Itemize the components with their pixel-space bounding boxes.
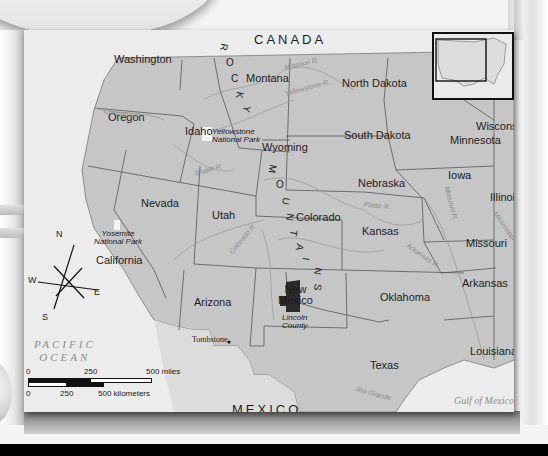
label-gulf-of-mexico: Gulf of Mexico <box>454 396 514 406</box>
compass-e: E <box>94 288 100 297</box>
label-mexico: MEXICO <box>232 403 301 412</box>
right-pillar <box>508 0 548 425</box>
label-south-dakota: South Dakota <box>344 130 411 141</box>
bottom-bar <box>0 444 548 456</box>
mtn-letter: Y <box>241 105 252 113</box>
label-utah: Utah <box>212 210 235 221</box>
label-new-mexico: New Mexico <box>278 284 313 306</box>
label-california: California <box>96 255 142 266</box>
label-minnesota: Minnesota <box>450 135 501 146</box>
label-idaho: Idaho <box>185 126 213 137</box>
label-new-mexico-line2: Mexico <box>278 295 313 306</box>
label-lincoln-county: Lincoln County <box>282 314 307 331</box>
label-nebraska: Nebraska <box>358 178 405 189</box>
label-illinois: Illinois <box>490 192 514 203</box>
label-arizona: Arizona <box>194 297 231 308</box>
mtn-letter: S <box>312 283 323 291</box>
label-north-dakota: North Dakota <box>342 78 407 89</box>
label-arkansas: Arkansas <box>462 278 508 289</box>
label-canada: CANADA <box>254 33 326 46</box>
label-colorado: Colorado <box>296 212 341 223</box>
map-shadow <box>24 411 520 434</box>
compass-s: S <box>42 313 48 322</box>
mtn-letter: O <box>276 180 284 190</box>
label-pacific-ocean: PACIFIC OCEAN <box>34 338 96 363</box>
ui-frame: CANADA MEXICO Washington Oregon Idaho Mo… <box>0 0 548 456</box>
right-pillar-accent <box>514 0 524 40</box>
mtn-letter: A <box>294 243 305 251</box>
label-texas: Texas <box>370 360 399 371</box>
label-montana: Montana <box>246 73 289 84</box>
label-washington: Washington <box>114 54 172 65</box>
label-iowa: Iowa <box>448 170 471 181</box>
mtn-letter: U <box>280 197 291 206</box>
label-kansas: Kansas <box>362 226 399 237</box>
inset-map <box>432 32 514 100</box>
mtn-letter: R <box>218 43 229 52</box>
mtn-letter: M <box>267 164 278 174</box>
label-yosemite: Yosemite National Park <box>94 230 142 247</box>
mtn-letter: N <box>284 213 295 222</box>
mtn-letter: C <box>231 74 238 84</box>
left-band <box>0 205 24 215</box>
scale-km-bar <box>28 382 68 387</box>
label-wyoming: Wyoming <box>262 142 308 153</box>
label-yellowstone: Yellowstone National Park <box>212 128 260 145</box>
label-nevada: Nevada <box>141 198 179 209</box>
label-missouri: Missouri <box>466 238 507 249</box>
compass-n: N <box>56 230 63 239</box>
mtn-letter: O <box>226 58 234 68</box>
map-panel: CANADA MEXICO Washington Oregon Idaho Mo… <box>24 30 514 412</box>
left-band <box>0 228 24 238</box>
mtn-letter: K <box>234 91 245 99</box>
label-oklahoma: Oklahoma <box>380 292 430 303</box>
mtn-letter: N <box>312 267 323 276</box>
label-wisconsin: Wisconsin <box>476 121 514 132</box>
label-louisiana: Louisiana <box>470 346 514 357</box>
scale-bar: 0 250 500 miles 0 250 500 kilometers <box>26 367 216 409</box>
label-tombstone: Tombstone <box>192 336 227 344</box>
inset-us-outline <box>434 34 512 98</box>
compass-w: W <box>28 276 37 285</box>
